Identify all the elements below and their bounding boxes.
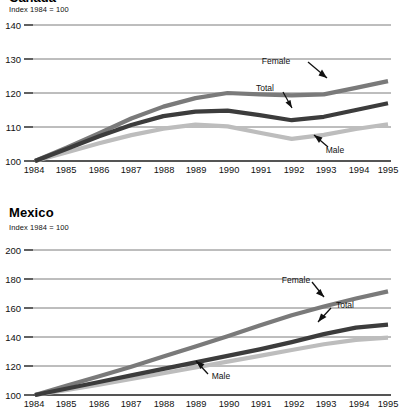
- y-tick-labels: 140 130 120 110 100: [5, 20, 21, 167]
- x-tick-label: 1993: [316, 165, 337, 175]
- annotation-male: Male: [314, 135, 344, 155]
- annotation-label-total: Total: [336, 300, 354, 310]
- x-tick-label: 1988: [154, 165, 175, 175]
- plot-area-canada: 140 130 120 110 100 Female Total: [0, 16, 399, 200]
- chart-figure-mexico: Mexico Index 1984 = 100: [0, 200, 399, 416]
- chart-svg-canada: 140 130 120 110 100 Female Total: [0, 16, 399, 200]
- x-tick-labels: 1984 1985 1986 1987 1988 1989 1990 1991 …: [24, 399, 399, 409]
- y-tick-marks: [24, 25, 33, 161]
- annotation-female: Female: [282, 275, 324, 297]
- plot-area-mexico: 200 180 160 140 120 100 Female Tot: [0, 234, 399, 416]
- x-tick-label: 1984: [24, 399, 45, 409]
- x-tick-label: 1984: [24, 165, 45, 175]
- y-tick-label: 140: [5, 20, 21, 31]
- y-tick-label: 180: [5, 274, 21, 285]
- chart-figure-canada: Canada Index 1984 = 100 140: [0, 0, 399, 200]
- y-tick-label: 110: [6, 122, 21, 133]
- chart-subtitle-canada: Index 1984 = 100: [9, 5, 69, 15]
- y-tick-label: 100: [5, 390, 21, 401]
- x-tick-label: 1986: [89, 165, 110, 175]
- x-tick-label: 1988: [154, 399, 175, 409]
- x-tick-label: 1986: [89, 399, 110, 409]
- annotation-total: Total: [318, 300, 354, 322]
- chart-subtitle-mexico: Index 1984 = 100: [9, 223, 69, 233]
- chart-svg-mexico: 200 180 160 140 120 100 Female Tot: [0, 234, 399, 416]
- x-tick-label: 1990: [219, 399, 240, 409]
- x-tick-labels: 1984 1985 1986 1987 1988 1989 1990 1991 …: [24, 165, 399, 175]
- x-tick-label: 1990: [219, 165, 240, 175]
- x-tick-label: 1995: [378, 399, 399, 409]
- x-tick-label: 1991: [251, 165, 272, 175]
- x-tick-label: 1995: [378, 165, 399, 175]
- y-tick-label: 120: [5, 88, 21, 99]
- annotation-label-female: Female: [262, 56, 291, 66]
- x-tick-label: 1992: [284, 165, 305, 175]
- y-tick-label: 200: [5, 245, 21, 256]
- x-tick-label: 1989: [186, 399, 207, 409]
- annotation-label-total: Total: [256, 83, 274, 93]
- x-tick-label: 1987: [121, 165, 142, 175]
- y-tick-label: 120: [5, 361, 21, 372]
- x-tick-label: 1992: [284, 399, 305, 409]
- x-tick-label: 1991: [251, 399, 272, 409]
- annotation-arrowhead-total: [286, 100, 293, 108]
- y-tick-label: 130: [5, 54, 21, 65]
- x-tick-label: 1987: [121, 399, 142, 409]
- page-title-mexico: Mexico: [9, 206, 54, 220]
- x-tick-label: 1994: [349, 165, 370, 175]
- y-tick-labels: 200 180 160 140 120 100: [5, 245, 21, 401]
- series-line-total: [35, 325, 388, 395]
- x-tick-label: 1994: [349, 399, 370, 409]
- annotation-label-male: Male: [212, 371, 231, 381]
- y-tick-label: 160: [5, 303, 21, 314]
- y-tick-label: 100: [5, 156, 21, 167]
- annotation-arrowhead-female: [319, 70, 328, 79]
- y-tick-label: 140: [5, 332, 21, 343]
- annotation-arrowhead-female: [316, 289, 324, 297]
- x-tick-label: 1985: [56, 399, 77, 409]
- y-tick-marks: [24, 250, 33, 395]
- x-tick-label: 1993: [316, 399, 337, 409]
- annotation-label-male: Male: [326, 145, 345, 155]
- x-tick-label: 1985: [56, 165, 77, 175]
- annotation-label-female: Female: [282, 275, 311, 285]
- x-tick-label: 1989: [186, 165, 207, 175]
